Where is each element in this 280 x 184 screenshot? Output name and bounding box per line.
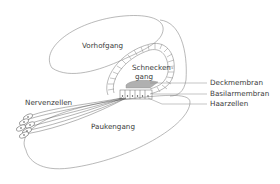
label-paukengang: Paukengang — [91, 123, 135, 130]
label-deckmembran: Deckmembran — [210, 79, 263, 86]
label-vorhofgang: Vorhofgang — [82, 42, 123, 49]
label-schneckengang-1: Schnecken- — [132, 64, 173, 71]
deckmembran-shape — [126, 80, 158, 88]
label-nervenzellen: Nervenzellen — [25, 99, 72, 106]
haarzellen-cells — [120, 90, 152, 99]
nervenzellen-cells — [15, 113, 35, 140]
label-haarzellen: Haarzellen — [210, 100, 248, 107]
label-basilarmembran: Basilarmembran — [210, 90, 269, 97]
cochlea-diagram: Vorhofgang Schnecken- gang Deckmembran B… — [0, 0, 280, 184]
label-schneckengang-2: gang — [135, 73, 153, 80]
